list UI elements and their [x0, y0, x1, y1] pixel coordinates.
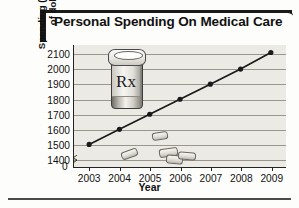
x-tick-mark: [211, 167, 212, 171]
y-tick-label: 1500: [47, 140, 70, 151]
x-tick-mark: [150, 167, 151, 171]
data-point-marker: [177, 97, 182, 102]
x-tick-mark: [241, 167, 242, 171]
x-tick-mark: [272, 167, 273, 171]
chart-title: Personal Spending On Medical Care: [54, 14, 283, 29]
axis-break-icon: [72, 155, 79, 164]
x-axis-label: Year: [0, 181, 299, 193]
data-point-marker: [208, 82, 213, 87]
y-tick-label: 2000: [47, 64, 70, 75]
frame-bottom-rule: [8, 198, 291, 200]
data-series-line: [74, 45, 286, 167]
plot-area: Spending (in billions of dollars) 140015…: [73, 45, 286, 168]
y-tick-label: 1700: [47, 109, 70, 120]
frame-top-rule: [40, 10, 292, 13]
data-point-marker: [238, 67, 243, 72]
y-tick-label: 1900: [47, 79, 70, 90]
y-tick-label: 1800: [47, 94, 70, 105]
y-tick-label: 2100: [47, 49, 70, 60]
x-tick-mark: [89, 167, 90, 171]
data-point-marker: [147, 112, 152, 117]
y-tick-label: 1600: [47, 125, 70, 136]
x-tick-mark: [181, 167, 182, 171]
data-point-marker: [268, 50, 273, 55]
data-point-marker: [117, 127, 122, 132]
frame-corner-curve: [286, 10, 293, 25]
chart-figure: Personal Spending On Medical Care Spendi…: [0, 0, 299, 208]
y-axis-origin-label: 0: [62, 161, 68, 172]
data-point-marker: [87, 142, 92, 147]
x-tick-mark: [120, 167, 121, 171]
